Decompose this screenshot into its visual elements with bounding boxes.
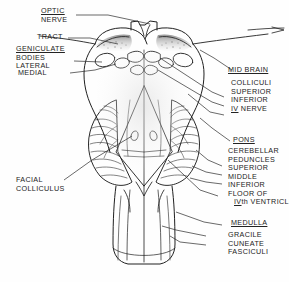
label-midbrain-text: MID BRAIN <box>228 66 268 75</box>
leader-peduncle-inferior <box>190 178 222 184</box>
label-geniculate-medial-line: MEDIAL <box>18 69 47 78</box>
label-medulla-group: GRACILE CUNEATE FASCICULI <box>228 231 268 257</box>
leader-medulla <box>176 212 222 225</box>
label-geniculate-medial: MEDIAL <box>18 69 47 78</box>
label-iv-ventricle-suffix: th VENTRICLE <box>242 197 290 206</box>
label-iv-ventricle-numeral: IV <box>234 197 242 206</box>
label-pons-heading: PONS <box>233 136 255 145</box>
leader-floor-iv-ventricle <box>168 160 218 196</box>
label-pons-text: PONS <box>233 136 255 145</box>
label-medulla-text: MEDULLA <box>231 219 267 228</box>
label-midbrain-group: COLLICULI SUPERIOR INFERIOR IV NERVE <box>231 79 271 113</box>
label-iv-ventricle: IVth VENTRICLE <box>228 198 289 207</box>
leader-gracile <box>162 226 206 236</box>
label-tract-line1: TRACT <box>37 33 63 42</box>
label-iv-nerve: IV NERVE <box>231 105 271 114</box>
leader-peduncle-superior <box>196 150 222 166</box>
label-geniculate-bodies: GENICULATE BODIES LATERAL <box>16 45 65 71</box>
label-optic-nerve: OPTIC NERVE <box>41 7 67 24</box>
label-iv-nerve-numeral: IV <box>231 104 239 113</box>
label-iv-nerve-word: NERVE <box>239 104 268 113</box>
leader-lateral-geniculate <box>74 61 102 62</box>
label-midbrain-heading: MID BRAIN <box>228 66 268 75</box>
label-optic-line2: NERVE <box>41 16 67 25</box>
leader-peduncle-middle <box>192 166 222 175</box>
label-facial-colliculus: FACIAL COLLICULUS <box>16 176 65 193</box>
leader-pons <box>200 118 230 141</box>
anatomical-figure-canvas: OPTIC NERVE TRACT GENICULATE BODIES LATE… <box>0 0 289 282</box>
label-fasciculi: FASCICULI <box>228 248 268 257</box>
label-tract: TRACT <box>37 33 63 42</box>
label-pons-group: CEREBELLAR PEDUNCLES SUPERIOR MIDDLE INF… <box>228 147 289 207</box>
label-facial-line2: COLLICULUS <box>16 185 65 194</box>
label-medulla-heading: MEDULLA <box>231 219 267 228</box>
